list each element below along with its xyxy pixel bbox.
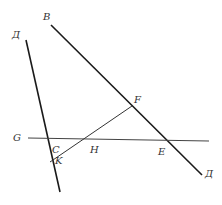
label-c: C — [52, 144, 60, 155]
geometry-diagram: B Д G C K H F E Д — [0, 0, 222, 205]
line-b-diagonal — [51, 25, 202, 175]
label-k: K — [54, 155, 63, 166]
label-f: F — [133, 94, 142, 105]
label-e: E — [157, 146, 166, 157]
label-b: B — [42, 11, 50, 22]
label-d-bottom: Д — [204, 168, 214, 179]
line-g-horizontal — [28, 138, 209, 141]
label-g: G — [13, 132, 21, 143]
label-d-top: Д — [11, 29, 21, 40]
line-d-steep — [26, 40, 60, 192]
label-h: H — [89, 144, 99, 155]
